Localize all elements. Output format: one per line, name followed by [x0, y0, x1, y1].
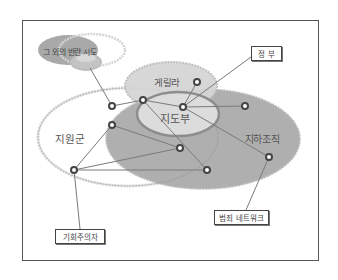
callout-opportunists: 기회주의자 — [55, 229, 105, 244]
label-leadership: 지도부 — [160, 110, 189, 126]
callout-criminal-network: 범죄 네트워크 — [214, 210, 269, 225]
callout-government: 정 부 — [251, 46, 282, 61]
callout-government-label: 정 부 — [258, 48, 274, 59]
node — [266, 154, 272, 160]
node — [140, 97, 146, 103]
label-supporters: 지원군 — [55, 131, 84, 146]
label-other-rebellions: 그 외의 반란 시도 — [43, 46, 97, 57]
node — [109, 103, 115, 109]
node — [109, 122, 115, 128]
node — [71, 167, 77, 173]
callout-criminal-network-label: 범죄 네트워크 — [219, 212, 263, 223]
node — [177, 145, 183, 151]
label-guerrilla: 게릴라 — [154, 75, 180, 89]
label-underground: 지하조직 — [245, 131, 280, 146]
node — [204, 167, 210, 173]
network-diagram — [0, 0, 338, 280]
node — [242, 103, 248, 109]
node — [194, 79, 200, 85]
callout-opportunists-label: 기회주의자 — [63, 231, 98, 242]
